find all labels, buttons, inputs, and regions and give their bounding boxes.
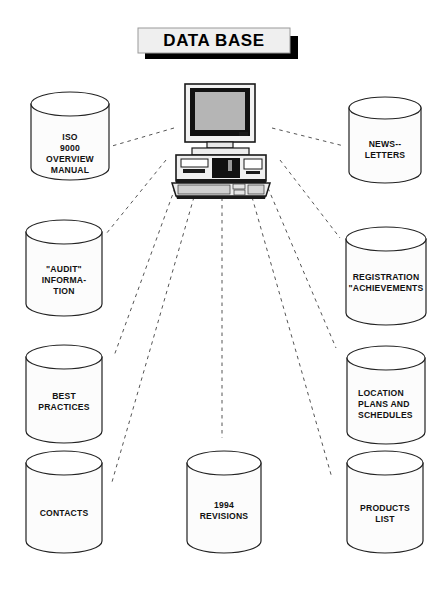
monitor-indicator-icon xyxy=(239,132,248,136)
drive-bay-left-slot-icon xyxy=(183,169,205,173)
cylinder-label-line: REVISIONS xyxy=(200,511,249,521)
cylinder-contacts[interactable]: CONTACTS xyxy=(26,451,102,553)
cylinder-top-ellipse xyxy=(349,97,421,119)
cylinder-label-line: SCHEDULES xyxy=(358,410,413,420)
monitor-stand-neck xyxy=(207,142,233,148)
cylinder-products-list[interactable]: PRODUCTSLIST xyxy=(347,451,423,553)
cylinder-label-line: PLANS AND xyxy=(358,399,410,409)
cylinder-label-line: TION xyxy=(53,286,74,296)
keyboard-keypad-icon xyxy=(248,185,264,194)
cylinder-label-line: PRACTICES xyxy=(38,402,90,412)
drive-bay-right xyxy=(244,159,262,169)
link-audit-information xyxy=(106,160,166,234)
cylinder-label-line: "ACHIEVEMENTS xyxy=(349,283,424,293)
database-diagram: DATA BASE xyxy=(0,0,446,590)
cylinder-top-ellipse xyxy=(26,345,102,369)
cylinder-top-ellipse xyxy=(26,220,102,244)
page-title: DATA BASE xyxy=(163,31,264,50)
link-location-plans-and-schedules xyxy=(268,188,336,348)
system-unit-center-panel xyxy=(212,158,240,178)
cylinder-top-ellipse xyxy=(26,451,102,475)
link-contacts xyxy=(112,190,196,482)
diagram-canvas: DATA BASE xyxy=(0,0,446,590)
cylinder-body xyxy=(346,239,426,325)
cylinder-label-line: LETTERS xyxy=(365,150,406,160)
cylinder-label-line: "AUDIT" xyxy=(46,264,82,274)
cylinder-iso-9000-overview-manual[interactable]: ISO9000OVERVIEWMANUAL xyxy=(31,92,109,180)
cylinder-body xyxy=(26,232,102,316)
cylinder-label-line: PRODUCTS xyxy=(360,503,410,513)
cylinder-top-ellipse xyxy=(347,346,425,370)
monitor-screen xyxy=(195,92,245,130)
cylinder-top-ellipse xyxy=(187,451,261,475)
link-registration-achievements xyxy=(280,160,340,238)
link-iso-9000-overview-manual xyxy=(112,128,174,146)
cylinder-1994-revisions[interactable]: 1994REVISIONS xyxy=(187,451,261,553)
cylinder-label-line: LOCATION xyxy=(358,388,404,398)
keyboard-spacebar-icon xyxy=(234,190,245,195)
cylinder-label-line: ISO xyxy=(62,132,78,142)
cylinder-newsletters[interactable]: NEWS--LETTERS xyxy=(349,97,421,183)
cylinder-audit-information[interactable]: "AUDIT"INFORMA-TION xyxy=(26,220,102,316)
keyboard-key-area-icon xyxy=(178,185,230,194)
keyboard-arrow-keys-icon xyxy=(233,184,245,189)
monitor-stand-base xyxy=(192,148,249,155)
cylinder-label-line: INFORMA- xyxy=(42,275,87,285)
cylinder-label-line: CONTACTS xyxy=(40,508,89,518)
link-products-list xyxy=(250,190,332,478)
keyboard-shadow xyxy=(176,196,266,199)
drive-bay-left xyxy=(181,159,208,167)
cylinder-registration-achievements[interactable]: REGISTRATION"ACHIEVEMENTS xyxy=(346,227,426,325)
cylinder-best-practices[interactable]: BESTPRACTICES xyxy=(26,345,102,443)
cylinder-label-line: OVERVIEW xyxy=(46,154,94,164)
cylinder-label-line: LIST xyxy=(375,514,395,524)
cylinder-location-plans-and-schedules[interactable]: LOCATIONPLANS ANDSCHEDULES xyxy=(347,346,425,444)
link-newsletters xyxy=(272,128,344,146)
cylinder-label-line: 9000 xyxy=(60,143,80,153)
desktop-computer xyxy=(172,84,270,199)
cylinder-top-ellipse xyxy=(31,92,109,116)
cylinder-top-ellipse xyxy=(346,227,426,251)
drive-bay-right-slot-icon xyxy=(246,171,260,174)
cylinder-label-line: BEST xyxy=(52,391,76,401)
cylinder-label-line: REGISTRATION xyxy=(353,272,420,282)
cylinder-top-ellipse xyxy=(347,451,423,475)
cylinder-label-line: NEWS-- xyxy=(369,139,402,149)
cylinder-label-line: 1994 xyxy=(214,500,234,510)
title-block: DATA BASE xyxy=(138,28,298,59)
cylinder-label-line: MANUAL xyxy=(51,165,89,175)
system-unit-center-detail-icon xyxy=(228,160,232,171)
